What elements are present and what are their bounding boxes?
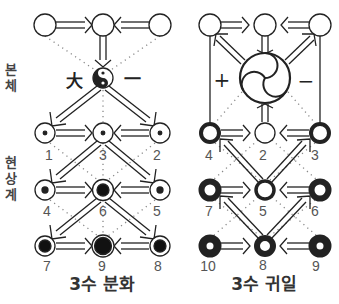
node-label: 10 — [200, 259, 216, 273]
node-label: 7 — [43, 259, 51, 273]
node-label: 4 — [43, 204, 51, 218]
node-label: 1 — [45, 148, 53, 162]
node-label: 5 — [259, 204, 267, 218]
label-char: 상 — [3, 171, 19, 187]
noumenon-label: 본 체 — [3, 62, 19, 94]
node-label: 8 — [154, 259, 162, 273]
label-char: 현 — [3, 155, 19, 171]
node-circle — [149, 14, 171, 36]
node-label: 7 — [205, 204, 213, 218]
minus-glyph: − — [298, 69, 315, 93]
right-diagram-title: 3수 귀일 — [231, 270, 297, 295]
taeguk-icon — [93, 68, 113, 88]
left-diagram — [34, 14, 171, 257]
node-circle — [34, 14, 56, 36]
node-label: 5 — [153, 204, 161, 218]
node-label: 4 — [205, 148, 213, 162]
right-row3-nodes — [203, 238, 328, 254]
node-label: 6 — [311, 204, 319, 218]
node-label: 3 — [311, 148, 319, 162]
label-char: 체 — [3, 78, 19, 94]
one-glyph: 一 — [124, 65, 141, 90]
label-char: 계 — [3, 187, 19, 203]
node-label: 9 — [312, 259, 320, 273]
node-label: 3 — [99, 148, 107, 162]
node-label: 2 — [259, 148, 267, 162]
node-label: 6 — [99, 204, 107, 218]
great-glyph: 大 — [66, 67, 83, 92]
node-circle — [92, 14, 114, 36]
phenomenon-label: 현 상 계 — [3, 155, 19, 203]
node-label: 2 — [153, 148, 161, 162]
label-char: 본 — [3, 62, 19, 78]
sam-taeguk-icon — [240, 53, 290, 103]
plus-glyph: + — [214, 68, 231, 92]
left-diagram-title: 3수 분화 — [69, 270, 135, 295]
